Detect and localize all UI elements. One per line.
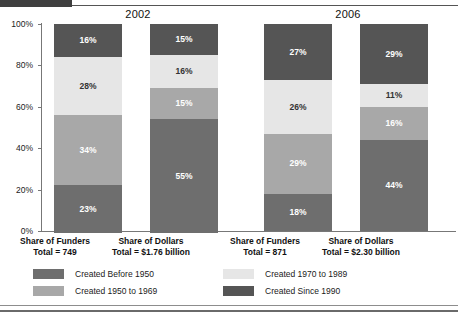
- y-axis-tick-mark: [38, 148, 41, 149]
- stacked-bar[interactable]: 16%28%34%23%: [54, 24, 122, 231]
- legend-item[interactable]: Created Since 1990: [223, 285, 340, 296]
- plot-area: 100%80%60%40%20%0% 16%28%34%23%15%16%15%…: [41, 23, 456, 232]
- bar-segment-value-label: 16%: [175, 67, 192, 76]
- bar-segment-value-label: 28%: [79, 82, 96, 91]
- bottom-divider-rule-thin: [0, 305, 458, 306]
- bar-segment[interactable]: 28%: [54, 57, 122, 115]
- bar-segment[interactable]: 23%: [54, 185, 122, 233]
- bottom-divider-rule-thick: [0, 310, 458, 312]
- legend-item[interactable]: Created Before 1950: [33, 268, 154, 279]
- bar-segment[interactable]: 18%: [264, 194, 332, 231]
- group-title-2006: 2006: [288, 8, 408, 20]
- legend-label: Created Before 1950: [75, 269, 154, 279]
- top-left-marker-bar: [0, 0, 72, 7]
- category-total: Total = $2.30 billion: [306, 247, 416, 258]
- bar-segment-value-label: 15%: [175, 35, 192, 44]
- stacked-bar[interactable]: 15%16%15%55%: [150, 24, 218, 231]
- stacked-bar-chart: 2002 2006 100%80%60%40%20%0% 16%28%34%23…: [0, 0, 458, 313]
- legend-item[interactable]: Created 1970 to 1989: [223, 268, 347, 279]
- bar-segment-value-label: 29%: [385, 50, 402, 59]
- bar-segment-value-label: 29%: [289, 159, 306, 168]
- legend-item[interactable]: Created 1950 to 1969: [33, 285, 157, 296]
- bar-segment-value-label: 16%: [385, 119, 402, 128]
- y-axis-tick-label: 80%: [0, 60, 33, 70]
- chart-legend: Created Before 1950Created 1950 to 1969C…: [33, 268, 433, 300]
- y-axis-tick-mark: [38, 190, 41, 191]
- bar-segment-value-label: 27%: [289, 48, 306, 57]
- y-axis-tick-label: 0%: [0, 226, 33, 236]
- bar-segment[interactable]: 11%: [360, 84, 428, 107]
- category-name: Share of Dollars: [96, 236, 206, 247]
- category-total: Total = 749: [0, 247, 110, 258]
- bar-segment[interactable]: 16%: [360, 107, 428, 140]
- y-axis-line: [41, 23, 42, 232]
- category-name: Share of Funders: [0, 236, 110, 247]
- category-name: Share of Funders: [210, 236, 320, 247]
- bar-segment[interactable]: 16%: [150, 55, 218, 88]
- bar-segment-value-label: 23%: [79, 205, 96, 214]
- category-label-3: Share of Dollars Total = $2.30 billion: [306, 236, 416, 259]
- bar-segment-value-label: 55%: [175, 172, 192, 181]
- category-label-1: Share of Dollars Total = $1.76 billion: [96, 236, 206, 259]
- legend-label: Created Since 1990: [265, 286, 340, 296]
- bar-segment[interactable]: 16%: [54, 24, 122, 57]
- bar-segment[interactable]: 44%: [360, 140, 428, 231]
- y-axis-tick-mark: [38, 65, 41, 66]
- bar-segment[interactable]: 34%: [54, 115, 122, 185]
- category-total: Total = 871: [210, 247, 320, 258]
- category-label-2: Share of Funders Total = 871: [210, 236, 320, 259]
- bar-segment-value-label: 15%: [175, 99, 192, 108]
- stacked-bar[interactable]: 27%26%29%18%: [264, 24, 332, 231]
- bar-segment-value-label: 18%: [289, 208, 306, 217]
- bar-segment-value-label: 34%: [79, 146, 96, 155]
- bar-segment-value-label: 16%: [79, 36, 96, 45]
- category-label-0: Share of Funders Total = 749: [0, 236, 110, 259]
- y-axis-tick-label: 60%: [0, 102, 33, 112]
- y-axis-tick-label: 20%: [0, 185, 33, 195]
- legend-swatch-icon: [223, 286, 254, 296]
- bar-segment-value-label: 44%: [385, 181, 402, 190]
- bar-segment[interactable]: 27%: [264, 24, 332, 80]
- y-axis-tick-label: 40%: [0, 143, 33, 153]
- legend-swatch-icon: [33, 286, 64, 296]
- bar-segment[interactable]: 15%: [150, 88, 218, 119]
- category-total: Total = $1.76 billion: [96, 247, 206, 258]
- category-name: Share of Dollars: [306, 236, 416, 247]
- bar-segment[interactable]: 55%: [150, 119, 218, 233]
- y-axis-tick-label: 100%: [0, 19, 33, 29]
- legend-label: Created 1950 to 1969: [75, 286, 157, 296]
- legend-label: Created 1970 to 1989: [265, 269, 347, 279]
- bar-segment-value-label: 26%: [289, 103, 306, 112]
- bar-segment[interactable]: 26%: [264, 80, 332, 134]
- bar-segment[interactable]: 15%: [150, 24, 218, 55]
- stacked-bar[interactable]: 29%11%16%44%: [360, 24, 428, 231]
- group-title-2002: 2002: [78, 8, 198, 20]
- legend-swatch-icon: [33, 269, 64, 279]
- y-axis-tick-mark: [38, 24, 41, 25]
- bar-segment[interactable]: 29%: [264, 134, 332, 194]
- legend-swatch-icon: [223, 269, 254, 279]
- bar-segment[interactable]: 29%: [360, 24, 428, 84]
- bar-segment-value-label: 11%: [386, 91, 403, 100]
- y-axis-tick-mark: [38, 231, 41, 232]
- y-axis-tick-mark: [38, 107, 41, 108]
